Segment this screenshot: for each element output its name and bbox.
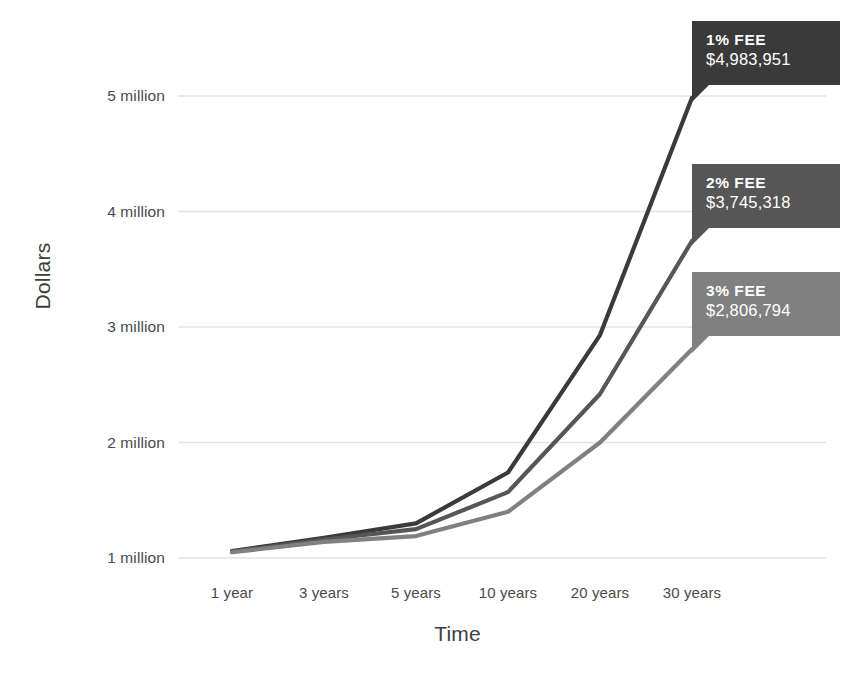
callout-title: 2% FEE <box>706 173 828 192</box>
series-line-1[interactable] <box>232 98 692 551</box>
series-line-3[interactable] <box>232 349 692 552</box>
callout-value: $2,806,794 <box>706 300 828 321</box>
y-axis-title: Dollars <box>31 206 55 346</box>
callout-value: $4,983,951 <box>706 49 828 70</box>
series-line-2[interactable] <box>232 241 692 552</box>
callout-value: $3,745,318 <box>706 192 828 213</box>
chart-container: —— — ——— —— — —— 1 million2 million3 mil… <box>0 0 850 685</box>
series-callout-1[interactable]: 1% FEE$4,983,951 <box>692 21 840 85</box>
y-tick-label: 5 million <box>20 87 165 105</box>
callout-title: 3% FEE <box>706 281 828 300</box>
callout-title: 1% FEE <box>706 30 828 49</box>
callout-tail <box>692 336 709 353</box>
series-callout-2[interactable]: 2% FEE$3,745,318 <box>692 164 840 228</box>
callout-tail <box>692 228 709 245</box>
callout-tail <box>692 85 709 102</box>
x-tick-label: 30 years <box>632 584 752 601</box>
x-axis-title: Time <box>0 622 850 646</box>
y-tick-label: 2 million <box>20 434 165 452</box>
y-tick-label: 1 million <box>20 549 165 567</box>
series-line-group <box>232 98 692 552</box>
series-callout-3[interactable]: 3% FEE$2,806,794 <box>692 272 840 336</box>
